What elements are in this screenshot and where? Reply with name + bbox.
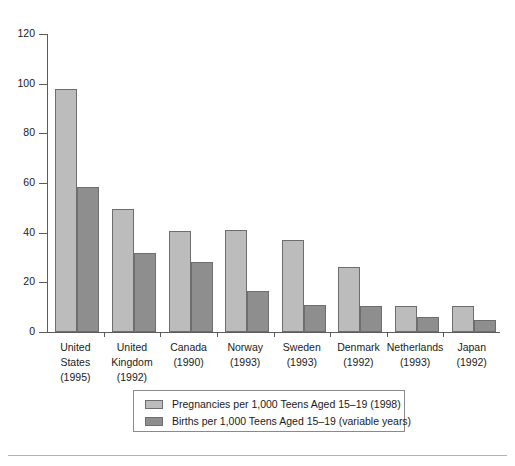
bar-births bbox=[134, 253, 156, 332]
category-label-line: (1992) bbox=[98, 370, 167, 385]
y-axis-tick: 0 bbox=[39, 332, 47, 333]
bar-group bbox=[338, 34, 382, 332]
category-label-line: Japan bbox=[437, 340, 506, 355]
bar-births bbox=[360, 306, 382, 332]
bar-pregnancies bbox=[395, 306, 417, 332]
y-axis-tick-label: 0 bbox=[29, 325, 35, 338]
y-axis-tick-label: 40 bbox=[23, 226, 35, 239]
bar-pregnancies bbox=[112, 209, 134, 332]
bar-pregnancies bbox=[452, 306, 474, 332]
bar-group bbox=[112, 34, 156, 332]
bar-pregnancies bbox=[282, 240, 304, 332]
bar-chart-figure: 020406080100120 UnitedStates(1995)United… bbox=[0, 0, 515, 466]
bar-group bbox=[395, 34, 439, 332]
x-axis-tick bbox=[387, 332, 388, 337]
bar-births bbox=[77, 187, 99, 332]
bar-pregnancies bbox=[225, 230, 247, 332]
x-axis-tick bbox=[160, 332, 161, 337]
footer-divider bbox=[8, 455, 507, 456]
bar-group bbox=[225, 34, 269, 332]
legend-item-pregnancies: Pregnancies per 1,000 Teens Aged 15–19 (… bbox=[145, 397, 404, 412]
bar-births bbox=[191, 262, 213, 332]
y-axis-tick: 120 bbox=[39, 34, 47, 35]
chart-legend: Pregnancies per 1,000 Teens Aged 15–19 (… bbox=[133, 390, 405, 432]
y-axis-tick: 40 bbox=[39, 233, 47, 234]
bar-group bbox=[452, 34, 496, 332]
x-axis-tick bbox=[330, 332, 331, 337]
y-axis-tick-label: 60 bbox=[23, 176, 35, 189]
x-axis-tick bbox=[217, 332, 218, 337]
x-axis-tick bbox=[274, 332, 275, 337]
bar-group bbox=[55, 34, 99, 332]
category-label-line: (1992) bbox=[437, 355, 506, 370]
y-axis-tick-label: 120 bbox=[17, 27, 35, 40]
y-axis-tick: 100 bbox=[39, 84, 47, 85]
legend-item-label: Births per 1,000 Teens Aged 15–19 (varia… bbox=[172, 415, 411, 428]
light-gray-swatch-icon bbox=[145, 400, 163, 409]
bar-births bbox=[247, 291, 269, 332]
bar-births bbox=[474, 320, 496, 332]
legend-item-label: Pregnancies per 1,000 Teens Aged 15–19 (… bbox=[172, 398, 401, 411]
x-axis-tick bbox=[443, 332, 444, 337]
y-axis-line bbox=[47, 34, 48, 332]
y-axis-tick: 20 bbox=[39, 282, 47, 283]
bar-pregnancies bbox=[169, 231, 191, 332]
bar-pregnancies bbox=[55, 89, 77, 332]
bar-pregnancies bbox=[338, 267, 360, 332]
y-axis-tick-label: 80 bbox=[23, 126, 35, 139]
bar-births bbox=[304, 305, 326, 332]
y-axis-tick: 80 bbox=[39, 133, 47, 134]
legend-item-births: Births per 1,000 Teens Aged 15–19 (varia… bbox=[145, 414, 404, 429]
y-axis-tick: 60 bbox=[39, 183, 47, 184]
category-label: Japan(1992) bbox=[437, 340, 506, 370]
y-axis-tick-label: 100 bbox=[17, 77, 35, 90]
plot-area: 020406080100120 UnitedStates(1995)United… bbox=[47, 34, 500, 332]
dark-gray-swatch-icon bbox=[145, 417, 163, 426]
x-axis-tick bbox=[104, 332, 105, 337]
y-axis-tick-label: 20 bbox=[23, 275, 35, 288]
bar-births bbox=[417, 317, 439, 332]
bar-group bbox=[169, 34, 213, 332]
bar-group bbox=[282, 34, 326, 332]
